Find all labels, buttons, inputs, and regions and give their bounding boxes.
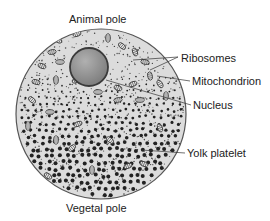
- label-ribosomes: Ribosomes: [181, 52, 236, 64]
- label-nucleus: Nucleus: [193, 99, 233, 111]
- label-vegetal-pole: Vegetal pole: [66, 202, 127, 214]
- nucleus-shape: [70, 48, 108, 86]
- label-mitochondrion: Mitochondrion: [192, 75, 261, 87]
- label-animal-pole: Animal pole: [69, 13, 126, 25]
- egg-cell-diagram: Animal pole Ribosomes Mitochondrion Nucl…: [0, 0, 270, 221]
- label-yolk-platelet: Yolk platelet: [187, 147, 246, 159]
